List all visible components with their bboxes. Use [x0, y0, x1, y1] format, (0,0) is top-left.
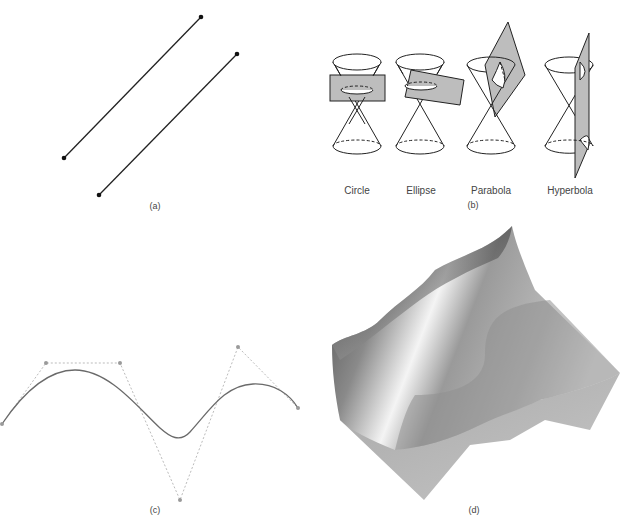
panel-b-conic-sections: [330, 22, 593, 178]
control-point: [296, 406, 300, 410]
panel-label-d: (d): [469, 505, 480, 515]
conic-label-ellipse: Ellipse: [406, 185, 435, 196]
panel-label-a: (a): [150, 201, 161, 211]
cone-parabola: [467, 22, 525, 154]
control-point: [44, 361, 48, 365]
control-point: [236, 345, 240, 349]
endpoint-dot: [97, 193, 102, 198]
line-segment-2: [99, 54, 237, 195]
cone-circle: [330, 54, 385, 154]
cone-ellipse: [396, 54, 464, 154]
panel-label-c: (c): [150, 505, 161, 515]
control-polygon: [2, 347, 298, 500]
panel-c-spline: [0, 345, 300, 502]
panel-label-b: (b): [468, 200, 479, 210]
cone-hyperbola: [545, 33, 593, 178]
endpoint-dot: [235, 52, 240, 57]
figure-canvas: [0, 0, 630, 523]
panel-d-surface: [332, 226, 620, 500]
conic-label-circle: Circle: [344, 185, 370, 196]
spline-curve: [2, 370, 298, 438]
endpoint-dot: [62, 156, 67, 161]
control-point: [118, 361, 122, 365]
control-point: [0, 422, 4, 426]
endpoint-dot: [199, 15, 204, 20]
control-point: [178, 498, 182, 502]
conic-label-hyperbola: Hyperbola: [547, 185, 593, 196]
panel-a-parallel-lines: [62, 15, 240, 198]
line-segment-1: [64, 17, 201, 158]
conic-label-parabola: Parabola: [471, 185, 511, 196]
